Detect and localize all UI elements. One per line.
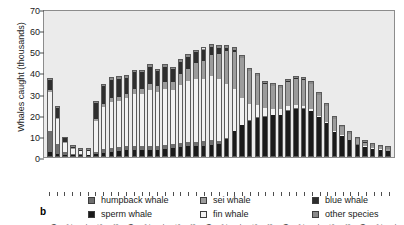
bar-cell-1981 (361, 11, 369, 157)
bar-cell-1962 (215, 11, 223, 157)
bar-segment-sperm-whale (71, 155, 75, 156)
bar-segment-sei-whale (286, 82, 290, 107)
stacked-bar[interactable] (124, 75, 130, 157)
stacked-bar[interactable] (301, 77, 307, 157)
stacked-bar[interactable] (239, 55, 245, 157)
legend-item-sperm-whale[interactable]: sperm whale (88, 209, 152, 219)
stacked-bar[interactable] (93, 101, 99, 157)
bar-cell-1957 (177, 11, 185, 157)
bar-cell-1978 (338, 11, 346, 157)
stacked-bar[interactable] (385, 146, 391, 157)
bar-segment-fin-whale (194, 79, 198, 141)
stacked-bar[interactable] (332, 116, 338, 157)
legend-item-fin-whale[interactable]: fin whale (200, 209, 249, 219)
stacked-bar[interactable] (162, 64, 168, 157)
bar-cell-1969 (269, 11, 277, 157)
stacked-bar[interactable] (316, 92, 322, 157)
stacked-bar[interactable] (132, 70, 138, 157)
stacked-bar[interactable] (347, 131, 353, 157)
stacked-bar[interactable] (255, 73, 261, 157)
bar-segment-fin-whale (202, 79, 206, 141)
stacked-bar[interactable] (139, 70, 145, 157)
stacked-bar[interactable] (378, 145, 384, 157)
stacked-bar[interactable] (232, 47, 238, 157)
bar-segment-sperm-whale (363, 147, 367, 156)
stacked-bar[interactable] (247, 68, 253, 157)
bar-cell-1964 (231, 11, 239, 157)
stacked-bar[interactable] (55, 106, 61, 157)
stacked-bar[interactable] (62, 137, 68, 157)
bar-cell-1979 (346, 11, 354, 157)
bar-cell-1944 (77, 11, 85, 157)
stacked-bar[interactable] (370, 143, 376, 157)
stacked-bar[interactable] (193, 50, 199, 157)
x-tick-label: 1946 (95, 224, 105, 225)
stacked-bar[interactable] (185, 54, 191, 157)
bar-segment-sperm-whale (210, 145, 214, 156)
bar-segment-sperm-whale (156, 150, 160, 156)
stacked-bar[interactable] (147, 64, 153, 157)
bar-segment-fin-whale (233, 89, 237, 131)
bar-segment-sperm-whale (171, 148, 175, 156)
legend-swatch-icon (88, 197, 95, 204)
x-tick-label: 1972 (296, 224, 306, 225)
stacked-bar[interactable] (216, 45, 222, 157)
bar-segment-fin-whale (225, 84, 229, 138)
legend-item-humpback-whale[interactable]: humpback whale (88, 195, 169, 205)
x-tick-label: 1982 (374, 224, 384, 225)
stacked-bar[interactable] (155, 69, 161, 157)
stacked-bar[interactable] (278, 85, 284, 157)
legend-row-bottom: sperm whalefin whaleother species (32, 208, 402, 220)
bar-segment-fin-whale (63, 143, 67, 153)
stacked-bar[interactable] (270, 83, 276, 157)
bar-segment-fin-whale (117, 101, 121, 146)
stacked-bar[interactable] (285, 79, 291, 157)
bar-segment-fin-whale (210, 76, 214, 140)
x-tick-label: 1952 (142, 224, 152, 225)
stacked-bar[interactable] (362, 140, 368, 157)
stacked-bar[interactable] (224, 45, 230, 157)
bar-segment-sperm-whale (233, 131, 237, 156)
bar-cell-1983 (377, 11, 385, 157)
bar-segment-fin-whale (133, 94, 137, 146)
bar-segment-fin-whale (163, 89, 167, 145)
bar-cell-1980 (354, 11, 362, 157)
legend-label: sei whale (213, 195, 251, 205)
bar-cell-1982 (369, 11, 377, 157)
bar-cell-1953 (146, 11, 154, 157)
stacked-bar[interactable] (116, 76, 122, 157)
stacked-bar[interactable] (355, 137, 361, 158)
stacked-bar[interactable] (109, 77, 115, 157)
legend-swatch-icon (200, 211, 207, 218)
stacked-bar[interactable] (170, 67, 176, 157)
bar-segment-sperm-whale (202, 146, 206, 156)
stacked-bar[interactable] (262, 81, 268, 157)
stacked-bar[interactable] (209, 44, 215, 157)
stacked-bar[interactable] (178, 59, 184, 157)
stacked-bar[interactable] (70, 145, 76, 157)
bar-segment-sperm-whale (140, 150, 144, 156)
stacked-bar[interactable] (47, 78, 53, 157)
bar-segment-sei-whale (256, 76, 260, 105)
legend-item-sei-whale[interactable]: sei whale (200, 195, 251, 205)
stacked-bar[interactable] (86, 148, 92, 157)
x-tick-label: 1942 (64, 224, 74, 225)
bar-cell-1956 (169, 11, 177, 157)
stacked-bar[interactable] (78, 148, 84, 157)
stacked-bar[interactable] (324, 103, 330, 157)
legend-item-blue-whale[interactable]: blue whale (312, 195, 368, 205)
bar-segment-fin-whale (156, 92, 160, 146)
stacked-bar[interactable] (201, 47, 207, 157)
bar-segment-sperm-whale (302, 109, 306, 156)
stacked-bar[interactable] (101, 84, 107, 157)
bar-segment-sperm-whale (179, 147, 183, 156)
stacked-bar[interactable] (308, 81, 314, 157)
x-tick-label: 1960 (204, 224, 214, 225)
stacked-bar[interactable] (293, 76, 299, 157)
legend-item-other-species[interactable]: other species (312, 209, 379, 219)
bar-segment-fin-whale (263, 108, 267, 116)
bar-segment-sperm-whale (186, 146, 190, 156)
legend-swatch-icon (312, 211, 319, 218)
bar-segment-sei-whale (294, 79, 298, 106)
stacked-bar[interactable] (339, 125, 345, 157)
